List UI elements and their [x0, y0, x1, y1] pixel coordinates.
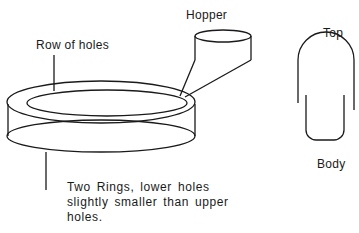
body-label: Body — [317, 157, 346, 171]
hopper-shape — [180, 30, 251, 97]
note-line-3: holes. — [67, 210, 229, 225]
upper-ring-inner-edge — [27, 90, 187, 116]
upper-ring-outer-edge — [7, 81, 195, 123]
note-line-1: Two Rings, lower holes — [67, 180, 229, 195]
hopper-label: Hopper — [186, 8, 227, 22]
note-line-2: slightly smaller than upper — [67, 195, 229, 210]
two-rings-note: Two Rings, lower holes slightly smaller … — [67, 180, 229, 225]
top-label: Top — [323, 26, 343, 40]
ring-assembly — [7, 81, 195, 152]
body-capsule — [298, 32, 354, 140]
row-of-holes-label: Row of holes — [36, 38, 109, 52]
lower-ring — [7, 120, 195, 152]
